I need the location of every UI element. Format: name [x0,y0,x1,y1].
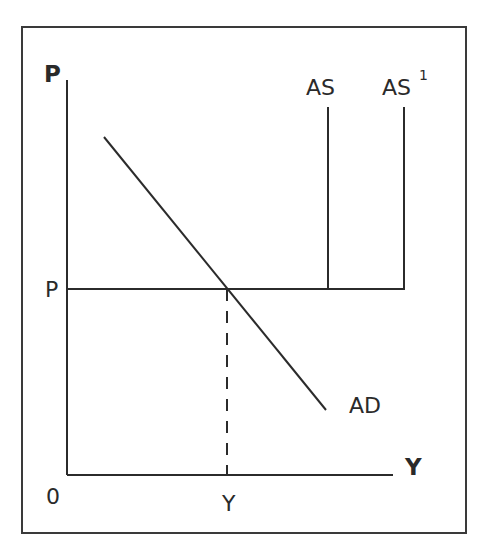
as1-superscript: 1 [419,67,428,83]
diagram-canvas: P Y 0 P Y AS AS 1 AD [0,0,479,549]
frame-border [22,27,466,533]
origin-label: 0 [46,484,60,509]
y-axis-label: P [44,61,61,87]
as1-label: AS [382,75,411,100]
ad-curve [104,137,326,410]
price-level-label: P [45,277,58,302]
output-level-label: Y [221,491,236,516]
x-axis-label: Y [404,454,422,480]
ad-label: AD [349,393,381,418]
as-label: AS [306,75,335,100]
